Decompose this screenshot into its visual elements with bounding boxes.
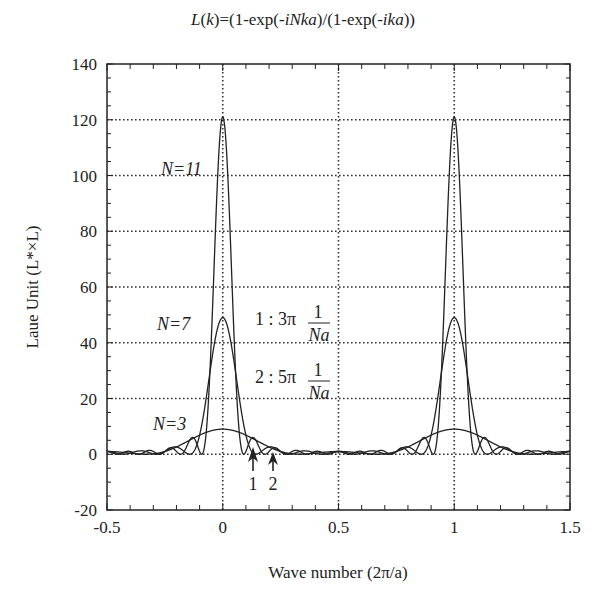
arrow-1-icon bbox=[248, 447, 258, 471]
x-tick-label: 0.5 bbox=[328, 518, 349, 537]
x-tick-label: 1 bbox=[450, 518, 459, 537]
y-tick-label: 20 bbox=[80, 390, 97, 409]
x-tick-label: 1.5 bbox=[559, 518, 580, 537]
arrow-1-label: 1 bbox=[249, 474, 258, 494]
y-tick-label: 120 bbox=[72, 111, 98, 130]
x-tick-label: -0.5 bbox=[94, 518, 121, 537]
chart-svg: -20020406080100120140-0.500.511.5 Wave n… bbox=[0, 0, 606, 602]
label-n7: N=7 bbox=[156, 314, 191, 334]
annotation-1-den: Na bbox=[307, 325, 329, 345]
label-n11: N=11 bbox=[160, 159, 202, 179]
tick-labels: -20020406080100120140-0.500.511.5 bbox=[72, 55, 581, 537]
y-tick-label: 140 bbox=[72, 55, 98, 74]
y-axis-label: Laue Unit (L*×L) bbox=[23, 226, 42, 349]
y-tick-label: 0 bbox=[89, 445, 98, 464]
y-tick-label: 100 bbox=[72, 167, 98, 186]
label-n3: N=3 bbox=[152, 414, 186, 434]
y-tick-label: 60 bbox=[80, 278, 97, 297]
y-tick-label: 80 bbox=[80, 222, 97, 241]
x-axis-label: Wave number (2π/a) bbox=[268, 563, 407, 582]
annotation-1-num: 1 bbox=[314, 302, 323, 322]
annotation-2-num: 1 bbox=[314, 360, 323, 380]
x-tick-label: 0 bbox=[219, 518, 228, 537]
grid-lines bbox=[107, 64, 570, 510]
arrow-2-label: 2 bbox=[269, 474, 278, 494]
annotation-2: 2 : 5π bbox=[255, 367, 296, 387]
annotation-2-den: Na bbox=[307, 383, 329, 403]
y-tick-label: 40 bbox=[80, 334, 97, 353]
annotation-1: 1 : 3π bbox=[255, 309, 296, 329]
